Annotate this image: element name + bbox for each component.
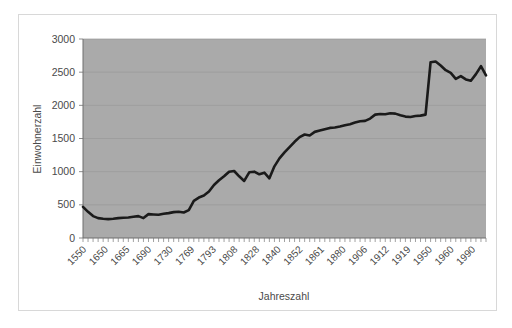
- x-tick-label: 1880: [324, 243, 348, 267]
- y-tick-label: 2000: [52, 99, 76, 111]
- y-tick-label: 0: [69, 232, 75, 244]
- x-tick-label: 1665: [108, 243, 132, 267]
- x-tick-label: 1906: [346, 243, 370, 267]
- x-tick-label: 1690: [130, 243, 154, 267]
- x-tick-label: 1861: [303, 243, 327, 267]
- population-line-chart: 050010001500200025003000 155016501665169…: [19, 15, 496, 310]
- y-tick-label: 1000: [52, 165, 76, 177]
- x-tick-labels: 1550165016651690173017691793180818281840…: [65, 243, 478, 267]
- x-tick-label: 1828: [238, 243, 262, 267]
- y-tick-labels: 050010001500200025003000: [52, 33, 76, 244]
- figure-canvas: 050010001500200025003000 155016501665169…: [0, 0, 512, 328]
- x-tick-label: 1840: [259, 243, 283, 267]
- y-tick-label: 3000: [52, 33, 76, 45]
- x-tick-label: 1919: [389, 243, 413, 267]
- chart-frame: 050010001500200025003000 155016501665169…: [18, 14, 497, 311]
- y-tick-label: 2500: [52, 66, 76, 78]
- x-tick-label: 1912: [367, 243, 391, 267]
- y-tick-marks: [79, 39, 83, 238]
- x-tick-label: 1650: [87, 243, 111, 267]
- x-tick-label: 1550: [65, 243, 89, 267]
- x-tick-label: 1852: [281, 243, 305, 267]
- y-tick-label: 500: [57, 198, 75, 210]
- x-tick-label: 1769: [173, 243, 197, 267]
- x-tick-label: 1730: [151, 243, 175, 267]
- x-axis-title: Jahreszahl: [259, 290, 310, 302]
- x-tick-label: 1808: [216, 243, 240, 267]
- x-tick-label: 1960: [432, 243, 456, 267]
- x-tick-label: 1793: [195, 243, 219, 267]
- y-tick-label: 1500: [52, 132, 76, 144]
- x-minor-tick-marks: [83, 238, 486, 242]
- y-axis-title: Einwohnerzahl: [31, 105, 43, 174]
- x-tick-label: 1950: [411, 243, 435, 267]
- x-tick-label: 1990: [454, 243, 478, 267]
